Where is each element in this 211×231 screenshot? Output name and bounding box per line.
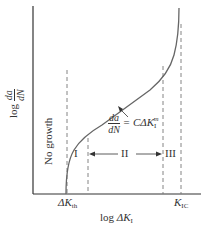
x-axis-label: log ΔKI [100, 212, 133, 225]
paris-law-equation: da dN = CΔKIm [108, 112, 158, 135]
y-axis-label-fraction: da dN [3, 89, 26, 101]
crack-growth-curve [66, 8, 179, 194]
y-axis-label: log da dN [3, 89, 26, 118]
region-no-growth-label: No growth [42, 118, 54, 165]
equation-rhs-subscript: I [154, 122, 156, 130]
x-tick-k-ic: KIC [174, 197, 188, 210]
region-2-label: II [121, 148, 128, 159]
x-tick-delta-k-threshold: ΔKth [58, 197, 77, 210]
region2-left-arrowhead [89, 152, 95, 157]
y-axis-label-prefix: log [7, 104, 19, 118]
equation-rhs-exponent: m [153, 115, 158, 123]
x-tick-delta-k-threshold-subscript: th [72, 202, 77, 210]
x-axis-label-subscript: I [131, 217, 133, 225]
y-axis-label-denominator: dN [15, 89, 26, 101]
equation-denominator: dN [108, 124, 120, 135]
x-tick-delta-k-threshold-symbol: ΔK [58, 196, 72, 208]
x-tick-k-ic-subscript: IC [181, 202, 188, 210]
x-axis-label-prefix: log [100, 211, 114, 223]
x-axis-label-symbol: ΔK [117, 211, 131, 223]
equation-numerator: da [108, 112, 120, 124]
region-3-label: III [165, 148, 176, 159]
equation-rhs: = CΔK [123, 116, 154, 128]
region-1-label: I [74, 148, 78, 159]
y-axis-label-numerator: da [3, 89, 15, 101]
region2-right-arrowhead [156, 152, 162, 157]
equation-fraction: da dN [108, 112, 120, 135]
